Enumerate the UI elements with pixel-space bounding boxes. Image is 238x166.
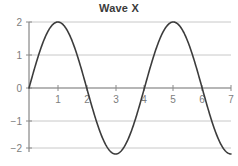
y-tick-label-neg1: −1 bbox=[11, 116, 23, 127]
y-tick-label-neg2: −2 bbox=[11, 143, 23, 154]
x-tick-label-3: 3 bbox=[113, 94, 119, 105]
chart-plot-area: 2 1 0 −1 −2 1 2 3 4 5 6 7 bbox=[0, 0, 238, 166]
chart-container: Wave X bbox=[0, 0, 238, 166]
x-tick-labels: 1 2 3 4 5 6 7 bbox=[55, 94, 234, 105]
x-tick-label-5: 5 bbox=[170, 94, 176, 105]
x-tick-label-7: 7 bbox=[228, 94, 234, 105]
x-tick-label-1: 1 bbox=[55, 94, 61, 105]
y-tick-label-2: 2 bbox=[16, 17, 22, 28]
y-tick-label-1: 1 bbox=[16, 50, 22, 61]
y-tick-labels: 2 1 0 −1 −2 bbox=[11, 17, 23, 154]
y-tick-label-0: 0 bbox=[16, 83, 22, 94]
